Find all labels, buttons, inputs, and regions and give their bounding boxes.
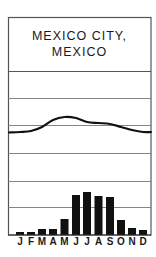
month-label: A	[93, 236, 104, 247]
precipitation-bar	[72, 195, 80, 235]
month-label: F	[26, 236, 37, 247]
month-label: J	[71, 236, 82, 247]
month-label: A	[48, 236, 59, 247]
chart-title-line2: MEXICO	[8, 45, 151, 59]
month-label: S	[105, 236, 116, 247]
precipitation-bar	[49, 229, 57, 235]
month-label: M	[37, 236, 48, 247]
month-label: J	[15, 236, 26, 247]
precipitation-bar	[61, 219, 69, 235]
precipitation-bar	[106, 197, 114, 235]
precipitation-bar	[83, 192, 91, 235]
month-label: D	[138, 236, 149, 247]
precipitation-bar	[95, 196, 103, 235]
precipitation-bar	[128, 228, 136, 235]
month-label: J	[82, 236, 93, 247]
month-label: O	[116, 236, 127, 247]
precipitation-bar	[38, 229, 46, 235]
precipitation-bar	[139, 230, 147, 235]
precipitation-bar	[117, 220, 125, 235]
chart-title-line1: MEXICO CITY,	[8, 29, 151, 43]
month-label: N	[127, 236, 138, 247]
month-label: M	[59, 236, 70, 247]
